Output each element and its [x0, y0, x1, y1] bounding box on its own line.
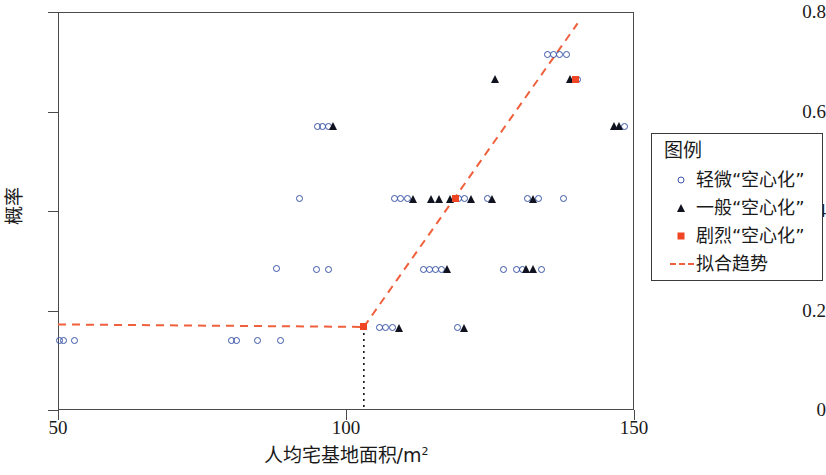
legend-entry-label: 拟合趋势	[696, 252, 768, 276]
x-tick-label: 150	[594, 418, 674, 437]
data-point-general	[443, 265, 451, 273]
legend-entry[interactable]: 轻微“空心化”	[664, 166, 824, 193]
legend-entry-label: 剧烈“空心化”	[696, 224, 805, 248]
y-tick-label: 0	[782, 400, 826, 419]
y-tick-label: 0.6	[782, 102, 826, 121]
data-point-slight	[71, 337, 78, 344]
legend: 图例 轻微“空心化”一般“空心化”剧烈“空心化”拟合趋势	[651, 133, 823, 281]
filled-triangle-icon	[670, 194, 692, 221]
plot-area	[58, 12, 634, 410]
x-tick-label: 50	[18, 418, 98, 437]
data-point-slight	[233, 337, 240, 344]
data-point-slight	[563, 51, 570, 58]
y-tick-label: 0.8	[782, 2, 826, 21]
data-point-general	[491, 75, 499, 83]
data-point-general	[467, 195, 475, 203]
data-point-slight	[325, 266, 332, 273]
dashed-line-icon	[670, 250, 692, 277]
legend-entry-label: 轻微“空心化”	[696, 168, 805, 192]
data-point-slight	[60, 337, 67, 344]
filled-square-icon	[670, 222, 692, 249]
y-tick	[48, 311, 58, 312]
data-point-general	[329, 122, 337, 130]
legend-entry[interactable]: 剧烈“空心化”	[664, 222, 824, 249]
breakpoint-marker	[360, 323, 367, 330]
data-point-general	[615, 122, 623, 130]
y-tick	[48, 410, 58, 411]
legend-entry[interactable]: 一般“空心化”	[664, 194, 824, 221]
data-point-severe	[452, 195, 459, 202]
chart-root: 00.20.40.60.8 50100150 概率 人均宅基地面积/m2 图例 …	[0, 0, 826, 475]
y-tick	[48, 211, 58, 212]
data-point-general	[529, 265, 537, 273]
data-point-slight	[397, 195, 404, 202]
legend-entry-label: 一般“空心化”	[696, 196, 805, 220]
data-point-slight	[560, 195, 567, 202]
data-point-slight	[500, 266, 507, 273]
data-point-slight	[556, 51, 563, 58]
data-point-general	[409, 195, 417, 203]
data-point-slight	[277, 337, 284, 344]
legend-entry[interactable]: 拟合趋势	[664, 250, 824, 277]
y-axis-title: 概率	[4, 166, 24, 246]
data-point-slight	[313, 266, 320, 273]
data-point-general	[488, 195, 496, 203]
data-point-general	[427, 195, 435, 203]
data-point-slight	[254, 337, 261, 344]
data-point-general	[435, 195, 443, 203]
x-axis-title: 人均宅基地面积/m2	[58, 442, 634, 465]
legend-title: 图例	[664, 139, 702, 161]
y-tick	[48, 112, 58, 113]
x-tick-label: 100	[306, 418, 386, 437]
data-point-general	[395, 324, 403, 332]
data-point-general	[529, 195, 537, 203]
data-point-slight	[538, 266, 545, 273]
y-tick-label: 0.2	[782, 301, 826, 320]
y-tick	[48, 12, 58, 13]
data-point-severe	[572, 76, 579, 83]
data-point-general	[460, 324, 468, 332]
open-circle-icon	[670, 166, 692, 193]
